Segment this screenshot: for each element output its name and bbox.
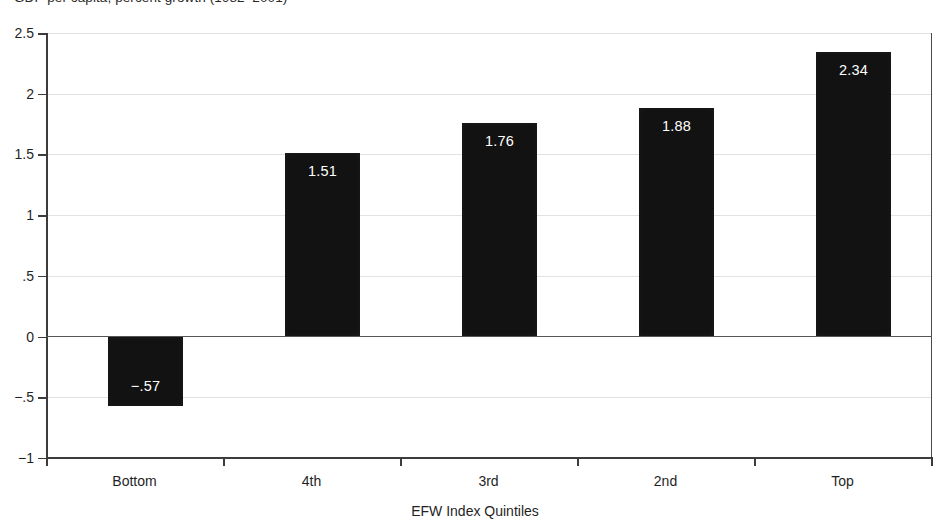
x-tick-5 (931, 457, 933, 466)
x-label-3rd: 3rd (394, 474, 584, 488)
gridline-2 (47, 94, 931, 95)
x-tick-3 (577, 457, 579, 466)
x-label-4th: 4th (217, 474, 407, 488)
y-tick-0-5 (38, 276, 46, 278)
x-axis-title: EFW Index Quintiles (0, 504, 950, 518)
bar-value-bottom: −.57 (108, 379, 183, 394)
y-tick-1-5 (38, 154, 46, 156)
bar-bottom: −.57 (108, 337, 183, 406)
bar-2nd: 1.88 (639, 108, 714, 336)
y-tick-1 (38, 215, 46, 217)
y-tick-neg-1 (38, 458, 46, 460)
x-tick-0 (46, 457, 48, 466)
y-tick-neg-0-5 (38, 397, 46, 399)
x-tick-4 (754, 457, 756, 466)
y-tick-label-0: 0 (0, 330, 34, 344)
x-label-bottom: Bottom (40, 474, 230, 488)
x-label-2nd: 2nd (571, 474, 761, 488)
y-tick-label-neg-0-5: −.5 (0, 390, 34, 404)
y-tick-2 (38, 94, 46, 96)
x-axis-line (46, 457, 932, 459)
y-tick-label-1: 1 (0, 208, 34, 222)
bar-top: 2.34 (816, 52, 891, 336)
y-tick-0 (38, 337, 46, 339)
bar-value-4th: 1.51 (285, 164, 360, 179)
chart-figure: GDP per capita, percent growth (1982–200… (0, 0, 950, 526)
chart-title: GDP per capita, percent growth (1982–200… (14, 0, 287, 5)
bar-value-3rd: 1.76 (462, 134, 537, 149)
y-tick-label-2: 2 (0, 87, 34, 101)
y-axis-line (46, 33, 48, 459)
x-tick-1 (223, 457, 225, 466)
y-tick-label-2-5: 2.5 (0, 26, 34, 40)
y-tick-label-0-5: .5 (0, 269, 34, 283)
bar-value-2nd: 1.88 (639, 119, 714, 134)
y-tick-label-neg-1: −1 (0, 451, 34, 465)
gridline-2-5 (47, 33, 931, 34)
bar-4th: 1.51 (285, 153, 360, 336)
bar-value-top: 2.34 (816, 63, 891, 78)
x-tick-2 (400, 457, 402, 466)
y-tick-label-1-5: 1.5 (0, 147, 34, 161)
bar-3rd: 1.76 (462, 123, 537, 337)
y-tick-2-5 (38, 33, 46, 35)
x-label-top: Top (748, 474, 938, 488)
